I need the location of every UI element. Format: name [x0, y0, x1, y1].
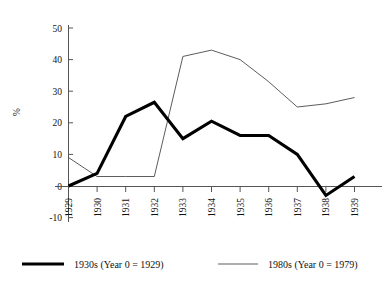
y-axis-title: %	[12, 108, 22, 116]
chart-container: % 50 40 30 20 10 0 -10	[0, 0, 388, 283]
y-tick-label-50: 50	[53, 24, 63, 34]
series-line-1980s	[69, 50, 355, 176]
x-tick-label-1936: 1936	[264, 198, 274, 217]
y-tick-label-10: 10	[53, 150, 63, 160]
x-tick-label-1931: 1931	[121, 198, 131, 217]
legend-label-1930s: 1930s (Year 0 = 1929)	[74, 259, 164, 271]
x-tick-label-1934: 1934	[207, 198, 217, 217]
y-tick-label-neg10: -10	[49, 213, 62, 223]
x-tick-label-1935: 1935	[236, 198, 246, 217]
x-tick-label-1933: 1933	[178, 198, 188, 217]
x-tick-label-1938: 1938	[321, 198, 331, 217]
x-tick-label-1937: 1937	[293, 198, 303, 217]
chart-legend: 1930s (Year 0 = 1929) 1980s (Year 0 = 19…	[22, 259, 358, 271]
series-line-1930s	[69, 102, 355, 195]
x-tick-label-1939: 1939	[350, 198, 360, 217]
line-chart-plot: % 50 40 30 20 10 0 -10	[0, 0, 388, 283]
y-tick-label-40: 40	[53, 55, 63, 65]
x-tick-label-1929: 1929	[64, 198, 74, 217]
y-tick-marks	[69, 28, 74, 218]
legend-label-1980s: 1980s (Year 0 = 1979)	[268, 259, 358, 271]
y-tick-label-20: 20	[53, 118, 63, 128]
x-tick-label-1932: 1932	[150, 198, 160, 217]
y-tick-label-30: 30	[53, 87, 63, 97]
x-tick-label-1930: 1930	[93, 198, 103, 217]
x-tick-marks	[69, 187, 355, 193]
